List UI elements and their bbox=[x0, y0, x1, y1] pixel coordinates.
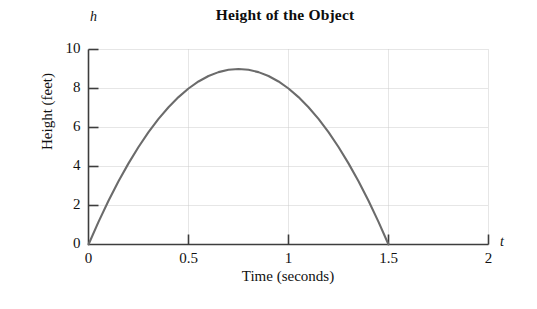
data-curve-parabola bbox=[89, 69, 389, 245]
x-tick-label: 0.5 bbox=[167, 250, 211, 267]
y-tick-label: 4 bbox=[37, 157, 81, 174]
y-tick-label: 6 bbox=[37, 118, 81, 135]
x-tick-label: 2 bbox=[467, 250, 511, 267]
y-tick-label: 8 bbox=[37, 79, 81, 96]
axis-lines bbox=[89, 50, 489, 245]
y-tick-label: 10 bbox=[37, 40, 81, 57]
x-tick-label: 1 bbox=[267, 250, 311, 267]
y-tick-label: 2 bbox=[37, 196, 81, 213]
grid-lines bbox=[89, 50, 489, 245]
axis-ticks bbox=[89, 50, 489, 245]
chart-figure: Height of the Object h t Height (feet) T… bbox=[0, 0, 537, 309]
x-tick-label: 1.5 bbox=[367, 250, 411, 267]
x-tick-label: 0 bbox=[67, 250, 111, 267]
